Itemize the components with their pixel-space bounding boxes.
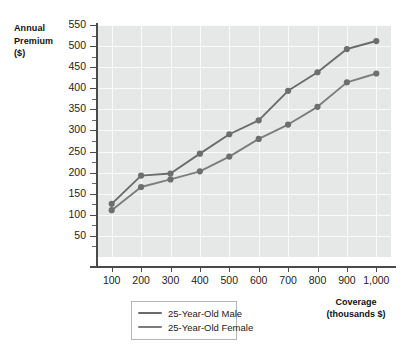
legend-item-male: 25-Year-Old Male (138, 306, 230, 320)
series-line-female (112, 74, 377, 211)
chart-figure: Annual Premium ($) 501001502002503003504… (0, 0, 418, 358)
data-point (109, 207, 115, 213)
series-line-male (112, 41, 377, 204)
data-point (285, 121, 291, 127)
data-point (226, 154, 232, 160)
data-point (226, 131, 232, 137)
data-point (285, 88, 291, 94)
data-point (197, 168, 203, 174)
data-point (138, 184, 144, 190)
data-point (314, 69, 320, 75)
x-axis-title: Coverage (thousands $) (300, 296, 412, 320)
x-axis-title-line-2: (thousands $) (300, 308, 412, 320)
data-point (138, 172, 144, 178)
legend-swatch-female (138, 326, 162, 328)
data-point (373, 38, 379, 44)
chart-legend: 25-Year-Old Male 25-Year-Old Female (131, 301, 237, 340)
data-point (344, 79, 350, 85)
legend-label-male: 25-Year-Old Male (168, 308, 242, 319)
data-point (344, 46, 350, 52)
data-point (314, 104, 320, 110)
data-point (109, 201, 115, 207)
legend-swatch-male (138, 312, 162, 314)
data-point (167, 176, 173, 182)
x-axis-title-line-1: Coverage (300, 296, 412, 308)
data-point (373, 70, 379, 76)
legend-item-female: 25-Year-Old Female (138, 320, 230, 334)
data-point (256, 117, 262, 123)
data-point (197, 151, 203, 157)
data-point (256, 136, 262, 142)
data-point (167, 170, 173, 176)
legend-label-female: 25-Year-Old Female (168, 322, 253, 333)
